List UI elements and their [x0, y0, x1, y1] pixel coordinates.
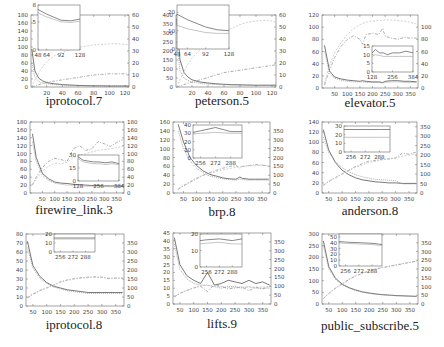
y2-tick-label: 10: [132, 72, 139, 78]
inset-y-tick-label: 0: [334, 263, 338, 269]
y2-tick-label: 50: [421, 292, 428, 298]
inset-x-tick-label: 288: [80, 254, 91, 260]
y2-tick-label: 100: [127, 151, 138, 157]
inset-y-tick-label: 20: [330, 251, 337, 257]
y-tick-label: 50: [16, 258, 23, 264]
x-tick-label: 300: [391, 307, 402, 313]
y-tick-label: 140: [18, 28, 29, 34]
y-tick-label: 50: [312, 289, 319, 295]
y-tick-label: 140: [17, 135, 28, 141]
x-tick-label: 200: [364, 196, 375, 202]
y2-tick-label: 40: [127, 174, 134, 180]
x-tick-label: 50: [29, 309, 36, 315]
y-tick-label: 350: [163, 21, 174, 27]
inset-x-tick-label: 256: [195, 160, 206, 166]
inset-frame: [54, 234, 95, 252]
inset-y-tick-label: 20: [191, 231, 198, 237]
inset-y-tick-label: 50: [330, 234, 337, 240]
y-tick-label: 70: [16, 240, 23, 246]
y2-tick-label: 300: [420, 133, 431, 139]
chart-panel-public-subscribe-5: 0501001502002503000501001502002503003505…: [296, 230, 444, 345]
inset-x-tick-label: 256: [55, 254, 66, 260]
y2-tick-label: 30: [132, 48, 139, 54]
inset-frame: [339, 234, 382, 266]
x-tick-label: 100: [191, 196, 202, 202]
x-tick-label: 350: [110, 309, 121, 315]
x-tick-label: 200: [364, 307, 375, 313]
y-tick-label: 0: [316, 301, 320, 307]
y2-tick-label: 300: [421, 249, 432, 255]
y-tick-label: 35: [163, 246, 170, 252]
y2-tick-label: 120: [127, 143, 138, 149]
y2-tick-label: 50: [420, 181, 427, 187]
y2-tick-label: 40: [132, 36, 139, 42]
chart-panel-firewire-link-3: 0204060801001201401601800204060801001201…: [0, 115, 148, 230]
inset-x-tick-label: 288: [374, 154, 385, 160]
y-tick-label: 250: [163, 39, 174, 45]
y2-tick-label: 10: [279, 72, 286, 78]
y2-tick-label: 0: [421, 85, 425, 91]
y2-tick-label: 20: [279, 60, 286, 66]
x-tick-label: 300: [390, 196, 401, 202]
y2-tick-label: 0: [420, 190, 424, 196]
inset-y-tick-label: 5: [33, 19, 37, 25]
chart-caption: anderson.8: [296, 203, 444, 219]
inset-y-tick-label: 20: [168, 9, 175, 15]
y2-tick-label: 180: [127, 119, 138, 125]
y-tick-label: 40: [163, 238, 170, 244]
inset-y-tick-label: 8: [33, 2, 37, 8]
y2-tick-label: 60: [127, 166, 134, 172]
inset-y-tick-label: 20: [45, 231, 52, 237]
y2-tick-label: 250: [421, 257, 432, 263]
y-tick-label: 100: [309, 139, 320, 145]
y2-tick-label: 0: [127, 303, 131, 309]
y2-tick-label: 150: [420, 162, 431, 168]
y-tick-label: 20: [20, 182, 27, 188]
y-tick-label: 100: [309, 278, 320, 284]
y2-tick-label: 60: [132, 12, 139, 18]
y-tick-label: 120: [160, 137, 171, 143]
y2-tick-label: 160: [127, 127, 138, 133]
y-tick-label: 20: [21, 76, 28, 82]
y-tick-label: 5: [167, 293, 171, 299]
y2-tick-label: 0: [279, 84, 283, 90]
y-tick-label: 160: [18, 20, 29, 26]
series-light-dashed: [27, 277, 122, 297]
y2-tick-label: 0: [132, 84, 136, 90]
y2-tick-label: 100: [273, 172, 284, 178]
y-tick-label: 0: [167, 301, 171, 307]
y-tick-label: 0: [24, 190, 28, 196]
inset-x-tick-label: 256: [340, 268, 351, 274]
y-tick-label: 250: [309, 243, 320, 249]
y2-tick-label: 20: [421, 73, 428, 79]
y-tick-label: 200: [309, 254, 320, 260]
y-tick-label: 150: [309, 266, 320, 272]
x-tick-label: 300: [97, 309, 108, 315]
x-tick-label: 150: [204, 196, 215, 202]
y-tick-label: 30: [16, 276, 23, 282]
y2-tick-label: 100: [421, 24, 432, 30]
inset-x-tick-label: 272: [354, 268, 365, 274]
chart-caption: firewire_link.3: [0, 202, 148, 218]
y-tick-label: 60: [21, 60, 28, 66]
inset-y-tick-label: 30: [330, 246, 337, 252]
y-tick-label: 100: [160, 146, 171, 152]
y-tick-label: 50: [166, 75, 173, 81]
inset-y-tick-label: 15: [363, 43, 370, 49]
series-dashed-dot: [178, 165, 269, 190]
x-tick-label: 50: [180, 196, 187, 202]
chart-caption: peterson.5: [148, 93, 296, 109]
y-tick-label: 0: [170, 84, 174, 90]
inset-frame: [38, 5, 80, 50]
inset-frame: [78, 155, 119, 181]
y-tick-label: 30: [163, 254, 170, 260]
y-tick-label: 0: [20, 303, 24, 309]
y-tick-label: 120: [18, 36, 29, 42]
y-tick-label: 15: [163, 277, 170, 283]
y2-tick-label: 200: [420, 152, 431, 158]
y2-tick-label: 50: [132, 24, 139, 30]
y2-tick-label: 350: [273, 128, 284, 134]
y-tick-label: 60: [312, 49, 319, 55]
inset-x-tick-label: 288: [225, 160, 236, 166]
inset-y-tick-label: 20: [184, 139, 191, 145]
